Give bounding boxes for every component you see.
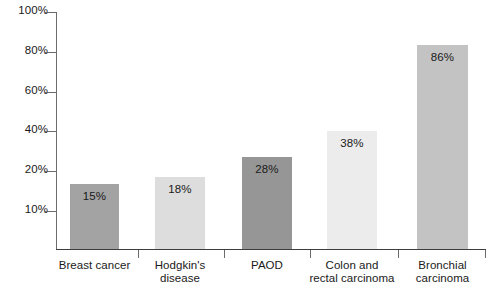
x-axis-separator-tick: [310, 250, 311, 258]
x-axis-end-tick: [485, 250, 486, 258]
category-label-line1: PAOD: [251, 259, 283, 271]
y-axis-tick-label: 60%: [25, 84, 48, 96]
y-axis-tick-label: 40%: [25, 123, 48, 135]
bar-value-label: 15%: [70, 190, 119, 202]
bar-value-label: 28%: [242, 163, 292, 175]
x-axis-separator-tick: [398, 250, 399, 258]
x-axis-line: [56, 249, 486, 250]
y-axis-tick-label: 20%: [25, 163, 48, 175]
y-axis-tick-label: 80%: [25, 44, 48, 56]
bar-value-label: 86%: [417, 51, 468, 63]
y-axis-tick-mark: [45, 211, 57, 212]
bar-colon-and-rectal-carcinoma: 38%: [327, 131, 377, 249]
category-label-line1: Colon and: [326, 259, 379, 271]
bar-chart: 100% 80% 60% 40% 20% 10% 15% 18% 28% 38%…: [0, 0, 489, 287]
y-axis-tick-label: 10%: [25, 203, 48, 215]
y-axis-tick-mark: [45, 131, 57, 132]
x-axis-separator-tick: [224, 250, 225, 258]
bar-bronchial-carcinoma: 86%: [417, 45, 468, 249]
y-axis-tick-mark: [45, 92, 57, 93]
bar-hodgkins-disease: 18%: [155, 177, 205, 249]
category-label-line2: carcinoma: [383, 272, 489, 285]
x-axis-category-label-bronchial-carcinoma: Bronchial carcinoma: [383, 259, 489, 285]
y-axis-tick-mark: [45, 12, 57, 13]
y-axis-tick-label: 100%: [18, 4, 48, 16]
category-label-line1: Bronchial: [418, 259, 466, 271]
bar-paod: 28%: [242, 157, 292, 249]
category-label-line2: disease: [120, 272, 240, 285]
bar-value-label: 38%: [327, 137, 377, 149]
bar-breast-cancer: 15%: [70, 184, 119, 249]
x-axis-separator-tick: [138, 250, 139, 258]
bar-value-label: 18%: [155, 183, 205, 195]
category-label-line1: Hodgkin's: [155, 259, 206, 271]
y-axis-tick-mark: [45, 171, 57, 172]
y-axis-tick-mark: [45, 52, 57, 53]
